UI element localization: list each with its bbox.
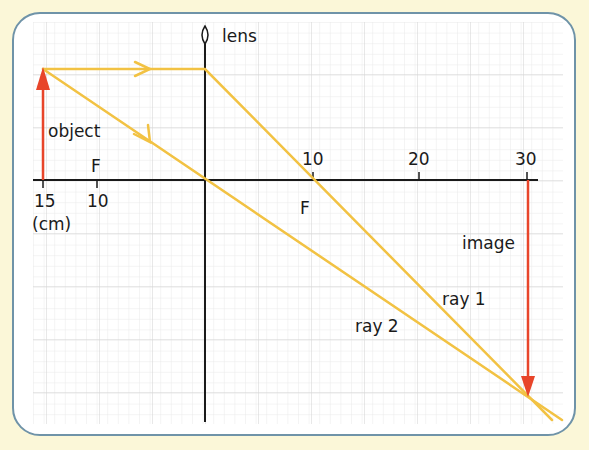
graph-paper-grid xyxy=(33,22,563,424)
object-label: object xyxy=(48,121,101,141)
lens-label: lens xyxy=(222,26,257,46)
ray-1-label: ray 1 xyxy=(442,289,486,309)
tick-15-label: 15 xyxy=(34,191,56,211)
tick-20-label: 20 xyxy=(408,149,430,169)
tick-10-left-label: 10 xyxy=(87,191,109,211)
unit-label: (cm) xyxy=(32,214,71,234)
focus-right-label: F xyxy=(300,198,310,218)
tick-30-label: 30 xyxy=(515,149,537,169)
ray-2-label: ray 2 xyxy=(355,316,399,336)
tick-10-right-label: 10 xyxy=(302,149,324,169)
image-label: image xyxy=(462,233,515,253)
lens-icon xyxy=(202,26,208,44)
ray-diagram: lens object F 15 10 (cm) 10 20 30 F imag… xyxy=(0,0,589,450)
focus-left-label: F xyxy=(91,156,101,176)
